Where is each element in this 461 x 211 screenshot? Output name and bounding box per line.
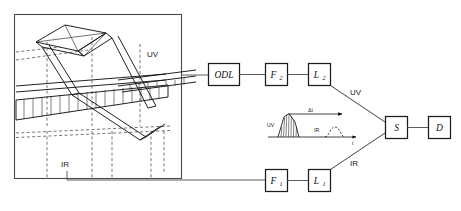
box-l2-label: L — [313, 70, 319, 80]
box-l2[interactable]: L 2 — [309, 64, 331, 86]
beam-label-uv-diagonal: UV — [350, 88, 362, 97]
inset-delay-label: Δt — [308, 107, 313, 113]
box-f1-label: F — [270, 176, 277, 186]
box-d[interactable]: D — [429, 117, 451, 139]
box-d-label: D — [435, 123, 443, 133]
box-f1-rect[interactable] — [266, 170, 288, 192]
beam-label-uv: UV — [147, 50, 159, 59]
box-f1[interactable]: F 1 — [266, 170, 288, 192]
pulse-timing-inset: t Δt UV IR — [267, 107, 356, 146]
box-odl-label: ODL — [214, 70, 233, 80]
panel-border — [15, 15, 182, 179]
box-f1-subscript: 1 — [280, 180, 283, 187]
box-l1-label: L — [313, 176, 319, 186]
inset-ir-pulse-label: IR — [314, 127, 319, 133]
optical-layout-panel: UV IR — [15, 15, 197, 179]
box-l1-rect[interactable] — [309, 170, 331, 192]
inset-uv-pulse-hatching — [281, 114, 297, 137]
beam-label-ir: IR — [61, 160, 69, 169]
beam-label-ir-diagonal: IR — [350, 159, 358, 168]
inset-uv-pulse: UV — [267, 114, 299, 138]
box-f2-rect[interactable] — [266, 64, 288, 86]
inset-time-axis-label: t — [352, 140, 354, 146]
inset-ir-pulse: IR — [314, 127, 345, 137]
box-s[interactable]: S — [386, 117, 408, 139]
box-s-label: S — [394, 123, 399, 133]
box-l1[interactable]: L 1 — [309, 170, 331, 192]
box-f2-label: F — [270, 70, 277, 80]
box-l2-rect[interactable] — [309, 64, 331, 86]
box-odl[interactable]: ODL — [209, 64, 240, 86]
box-f2[interactable]: F 2 — [266, 64, 288, 86]
box-l2-subscript: 2 — [323, 74, 326, 81]
figure-root: UV IR ODL F 2 L — [0, 0, 461, 211]
inset-uv-pulse-label: UV — [267, 122, 275, 128]
schematic-diagram: UV IR ODL F 2 L — [0, 0, 461, 211]
detection-stage: S D — [386, 117, 451, 139]
box-l1-subscript: 1 — [323, 180, 326, 187]
uv-signal-path: ODL F 2 L 2 UV — [181, 64, 385, 123]
box-f2-subscript: 2 — [280, 74, 283, 81]
